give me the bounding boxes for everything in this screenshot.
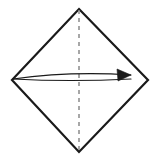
diagram-canvas [0,0,161,160]
origami-fold-diagram [0,0,161,160]
